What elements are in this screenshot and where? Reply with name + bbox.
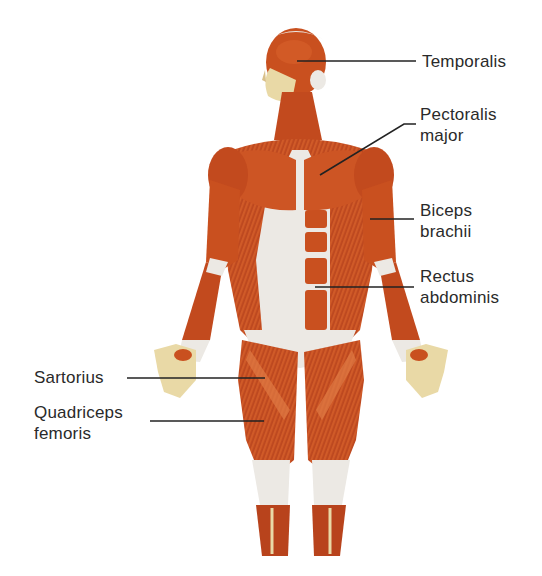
label-quadriceps-femoris: Quadriceps femoris [34, 402, 123, 444]
label-line: Rectus [420, 266, 499, 287]
label-sartorius: Sartorius [34, 367, 104, 388]
label-rectus-abdominis: Rectus abdominis [420, 266, 499, 308]
label-pectoralis-major: Pectoralis major [420, 104, 497, 146]
label-line: major [420, 125, 497, 146]
muscle-diagram: Temporalis Pectoralis major Biceps brach… [0, 0, 542, 576]
label-biceps-brachii: Biceps brachii [420, 200, 472, 242]
label-line: Sartorius [34, 367, 104, 388]
label-line: Pectoralis [420, 104, 497, 125]
left-arm [154, 180, 240, 398]
head [262, 28, 326, 101]
label-line: Quadriceps [34, 402, 123, 423]
right-leg [304, 340, 364, 556]
left-leg [238, 340, 298, 556]
label-line: Biceps [420, 200, 472, 221]
label-line: Temporalis [422, 51, 506, 72]
label-line: brachii [420, 221, 472, 242]
label-temporalis: Temporalis [422, 51, 506, 72]
label-line: abdominis [420, 287, 499, 308]
label-line: femoris [34, 423, 123, 444]
neck [274, 92, 322, 140]
